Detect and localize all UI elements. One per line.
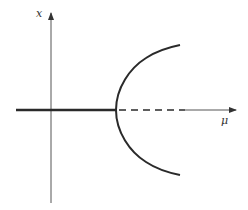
lower-stable-branch [116,110,180,175]
bifurcation-diagram: x μ [0,0,248,210]
upper-stable-branch [116,45,180,110]
x-axis-label: x [36,7,43,20]
mu-axis-label: μ [221,114,228,127]
